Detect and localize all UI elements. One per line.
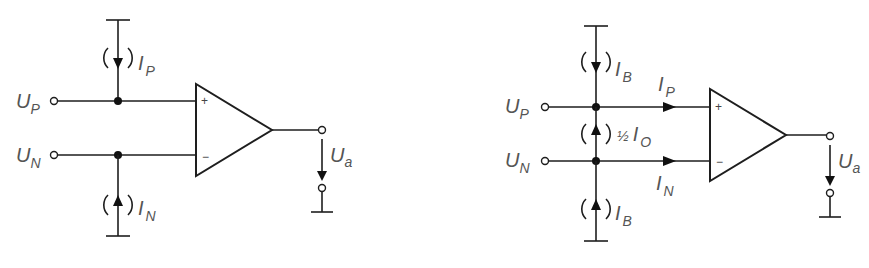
label-in: IN (656, 172, 675, 199)
label-ib-top: IB (615, 58, 632, 85)
arrow-right-icon (663, 156, 676, 166)
arrow-down-icon (113, 58, 123, 69)
current-source-ib-bottom (582, 195, 610, 223)
left-circuit: IP UP UN IN + − Ua (16, 20, 352, 236)
terminal-ground (827, 190, 834, 197)
arrow-down-icon (591, 62, 601, 73)
label-up: UP (505, 95, 529, 122)
label-ua: Ua (838, 150, 860, 176)
label-ib-bottom: IB (615, 202, 632, 229)
label-un: UN (505, 149, 530, 176)
terminal-ground (319, 185, 326, 192)
minus-sign: − (716, 155, 723, 169)
plus-sign: + (201, 94, 208, 108)
right-circuit: IB UP IP ½IO UN IN (505, 26, 860, 241)
terminal-un (542, 158, 549, 165)
current-source-in (104, 191, 132, 219)
opamp-bias-current-diagrams: IP UP UN IN + − Ua (0, 0, 869, 268)
terminal-up (542, 104, 549, 111)
arrow-right-icon (663, 102, 676, 112)
label-un: UN (16, 144, 41, 171)
junction-p (114, 97, 122, 105)
label-half-io: ½IO (617, 123, 651, 150)
current-source-ib-top (582, 48, 610, 76)
terminal-output (319, 127, 326, 134)
label-in: IN (138, 197, 157, 224)
minus-sign: − (202, 150, 209, 164)
arrow-down-icon (825, 176, 835, 186)
label-up: UP (16, 90, 40, 117)
terminal-output (827, 133, 834, 140)
arrow-up-icon (591, 124, 601, 135)
terminal-up (51, 98, 58, 105)
plus-sign: + (715, 100, 722, 114)
arrow-down-icon (317, 171, 327, 181)
current-source-io-half (582, 120, 610, 148)
arrow-up-icon (113, 195, 123, 206)
label-ip: IP (138, 52, 156, 79)
label-ua: Ua (330, 144, 352, 170)
label-ip: IP (658, 73, 676, 100)
current-source-ip (104, 44, 132, 72)
terminal-un (51, 152, 58, 159)
arrow-up-icon (591, 199, 601, 210)
